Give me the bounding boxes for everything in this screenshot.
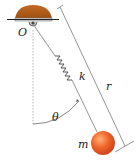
mass-label: m — [78, 139, 88, 150]
spring — [55, 56, 72, 80]
angle-label: θ — [52, 112, 59, 123]
pivot-label: O — [18, 27, 27, 38]
length-label: r — [106, 81, 111, 92]
pendulum-rod — [33, 24, 55, 56]
ceiling-support — [15, 5, 52, 19]
mass-sphere — [91, 131, 115, 155]
spring-constant-label: k — [79, 71, 86, 82]
